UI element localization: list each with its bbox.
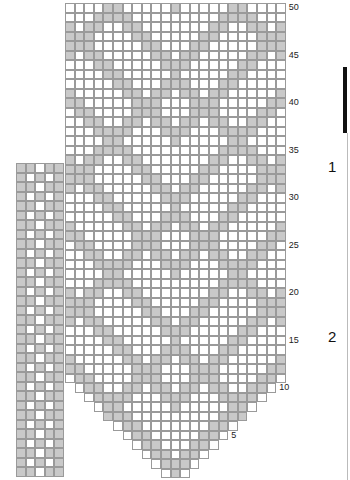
chart-cell (267, 13, 277, 23)
chart-cell (190, 203, 200, 213)
chart-cell (75, 22, 85, 32)
chart-cell (219, 136, 229, 146)
chart-cell (238, 41, 248, 51)
chart-cell (257, 393, 267, 403)
chart-cell (75, 193, 85, 203)
chart-cell (219, 117, 229, 127)
chart-cell (103, 336, 113, 346)
strip-cell (54, 363, 64, 373)
chart-cell (276, 336, 286, 346)
chart-cell (267, 298, 277, 308)
chart-cell (219, 155, 229, 165)
chart-cell (161, 279, 171, 289)
chart-cell (276, 317, 286, 327)
strip-cell (26, 410, 36, 420)
chart-cell (228, 13, 238, 23)
chart-cell (123, 51, 133, 61)
chart-cell (94, 70, 104, 80)
chart-cell (123, 98, 133, 108)
chart-cell (171, 212, 181, 222)
chart-cell (151, 440, 161, 450)
strip-cell (35, 277, 45, 287)
chart-cell (190, 3, 200, 13)
chart-cell (238, 13, 248, 23)
chart-cell (199, 146, 209, 156)
chart-cell (123, 165, 133, 175)
chart-cell (142, 431, 152, 441)
chart-cell (219, 222, 229, 232)
chart-cell (151, 326, 161, 336)
chart-cell (209, 374, 219, 384)
chart-cell (267, 22, 277, 32)
chart-cell (171, 22, 181, 32)
strip-cell (26, 315, 36, 325)
chart-cell (94, 364, 104, 374)
chart-cell (199, 355, 209, 365)
strip-cell (26, 353, 36, 363)
strip-cell (54, 325, 64, 335)
chart-cell (180, 127, 190, 137)
chart-cell (84, 298, 94, 308)
chart-cell (190, 155, 200, 165)
chart-cell (161, 3, 171, 13)
chart-cell (142, 174, 152, 184)
chart-cell (151, 364, 161, 374)
chart-cell (190, 431, 200, 441)
chart-cell (151, 421, 161, 431)
row-label: 45 (289, 50, 299, 60)
chart-cell (267, 241, 277, 251)
chart-cell (161, 79, 171, 89)
chart-cell (94, 13, 104, 23)
chart-cell (113, 279, 123, 289)
chart-cell (132, 222, 142, 232)
chart-cell (142, 193, 152, 203)
chart-cell (94, 146, 104, 156)
chart-cell (161, 89, 171, 99)
chart-cell (65, 60, 75, 70)
chart-cell (267, 32, 277, 42)
chart-cell (238, 393, 248, 403)
chart-cell (75, 345, 85, 355)
chart-cell (103, 383, 113, 393)
chart-cell (113, 79, 123, 89)
chart-cell (103, 269, 113, 279)
chart-cell (276, 250, 286, 260)
strip-cell (45, 239, 55, 249)
chart-cell (84, 98, 94, 108)
chart-cell (103, 70, 113, 80)
strip-cell (54, 258, 64, 268)
chart-cell (238, 146, 248, 156)
chart-cell (103, 231, 113, 241)
chart-cell (228, 345, 238, 355)
chart-cell (171, 231, 181, 241)
chart-cell (161, 13, 171, 23)
chart-cell (267, 3, 277, 13)
chart-cell (75, 241, 85, 251)
chart-cell (132, 374, 142, 384)
chart-cell (190, 260, 200, 270)
chart-cell (219, 98, 229, 108)
chart-cell (142, 231, 152, 241)
chart-cell (209, 326, 219, 336)
chart-cell (161, 345, 171, 355)
chart-cell (190, 374, 200, 384)
chart-cell (65, 41, 75, 51)
chart-cell (190, 326, 200, 336)
chart-cell (257, 269, 267, 279)
chart-cell (180, 345, 190, 355)
chart-cell (238, 3, 248, 13)
chart-cell (142, 374, 152, 384)
chart-cell (161, 269, 171, 279)
chart-cell (228, 22, 238, 32)
strip-cell (35, 325, 45, 335)
chart-cell (276, 89, 286, 99)
chart-cell (276, 241, 286, 251)
strip-cell (26, 439, 36, 449)
chart-cell (199, 269, 209, 279)
chart-cell (267, 336, 277, 346)
chart-cell (199, 32, 209, 42)
chart-cell (180, 241, 190, 251)
strip-cell (54, 334, 64, 344)
chart-cell (75, 364, 85, 374)
chart-cell (180, 393, 190, 403)
